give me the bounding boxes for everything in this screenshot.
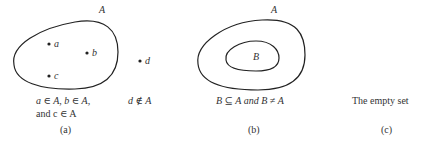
caption-c: The empty set <box>352 95 409 106</box>
set-a-label: A <box>99 4 105 15</box>
point-a-label: a <box>54 38 59 49</box>
point-b <box>85 51 88 54</box>
set-b-label: B <box>253 51 259 62</box>
tag-c: (c) <box>381 124 392 135</box>
tag-b: (b) <box>248 124 260 135</box>
set-a-outer-label: A <box>271 4 277 15</box>
point-a <box>47 42 50 45</box>
tag-a: (a) <box>60 124 71 135</box>
point-c-label: c <box>54 70 58 81</box>
caption-a-side: d ∉ A <box>128 95 151 106</box>
point-d-label: d <box>145 55 150 66</box>
set-diagram-figure: A a b c d a ∈ A, b ∈ A, and c ∈ A d ∉ A … <box>0 0 425 142</box>
point-c <box>47 74 50 77</box>
caption-b: B ⊆ A and B ≠ A <box>216 95 284 106</box>
caption-a-line2: and c ∈ A <box>36 108 76 119</box>
caption-a-line1: a ∈ A, b ∈ A, <box>36 95 90 106</box>
point-b-label: b <box>92 47 97 58</box>
set-a-boundary <box>14 21 118 89</box>
point-d <box>138 59 141 62</box>
set-a-outer-boundary <box>198 20 305 90</box>
diagram-shapes <box>0 0 425 142</box>
